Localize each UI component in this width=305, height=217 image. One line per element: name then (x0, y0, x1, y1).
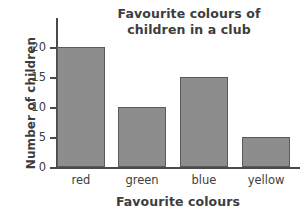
y-tick-label-5: 5 (16, 132, 46, 143)
x-tick-label-red: red (57, 173, 105, 187)
y-tick-label-wrap-10: 10 (12, 102, 46, 113)
x-tick-label-green: green (118, 173, 166, 187)
bar-red[interactable] (57, 47, 105, 167)
plot-area: 0 5 10 15 20 red green blue yellow (0, 0, 305, 217)
y-tick-label-wrap-0: 0 (12, 162, 46, 173)
x-axis-line (50, 167, 300, 169)
y-tick-label-0: 0 (16, 162, 46, 173)
bar-green[interactable] (118, 107, 166, 167)
y-tick-label-wrap-5: 5 (12, 132, 46, 143)
y-tick-label-wrap-15: 15 (12, 72, 46, 83)
bar-chart-figure: Favourite colours of children in a club … (0, 0, 305, 217)
y-tick-label-20: 20 (16, 42, 46, 53)
x-tick-label-blue: blue (180, 173, 228, 187)
y-tick-label-wrap-20: 20 (12, 42, 46, 53)
bar-blue[interactable] (180, 77, 228, 167)
y-tick-label-10: 10 (16, 102, 46, 113)
y-tick-0 (50, 167, 58, 169)
y-tick-label-15: 15 (16, 72, 46, 83)
x-tick-label-yellow: yellow (242, 173, 290, 187)
bar-yellow[interactable] (242, 137, 290, 167)
x-axis-title: Favourite colours (56, 194, 300, 209)
